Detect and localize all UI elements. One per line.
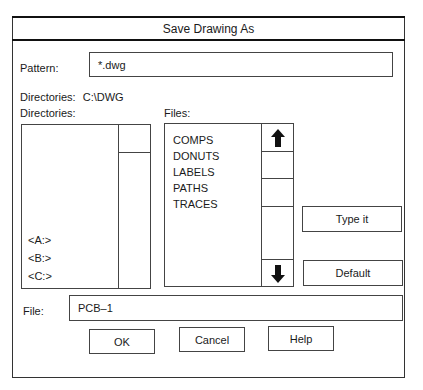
cancel-button[interactable]: Cancel (179, 327, 245, 352)
file-item[interactable]: TRACES (173, 196, 219, 212)
directories-scrollbar[interactable] (118, 124, 151, 289)
directory-item-c[interactable]: <C:> (28, 267, 52, 285)
directories-scroll-thumb[interactable] (119, 125, 150, 153)
scroll-divider (262, 178, 293, 179)
directories-list[interactable]: <A:> <B:> <C:> (21, 124, 119, 289)
help-label: Help (290, 333, 313, 345)
current-directory: Directories: C:\DWG (20, 91, 124, 103)
default-button[interactable]: Default (303, 260, 403, 286)
dialog-title-bar: Save Drawing As (12, 16, 405, 41)
file-item[interactable]: DONUTS (173, 148, 219, 164)
file-input[interactable]: PCB–1 (69, 295, 403, 321)
directories-label: Directories: (20, 107, 76, 119)
files-list[interactable]: COMPS DONUTS LABELS PATHS TRACES (164, 123, 262, 287)
scroll-down-button[interactable] (262, 259, 293, 287)
ok-label: OK (114, 336, 130, 348)
arrow-up-icon (271, 129, 285, 147)
default-label: Default (336, 267, 371, 279)
dialog-title: Save Drawing As (163, 22, 254, 36)
cancel-label: Cancel (195, 334, 229, 346)
files-scrollbar[interactable] (261, 123, 294, 287)
type-it-button[interactable]: Type it (302, 206, 402, 232)
current-directory-label: Directories: (20, 91, 76, 103)
arrow-down-icon (271, 265, 285, 283)
ok-button[interactable]: OK (89, 329, 155, 354)
files-label: Files: (164, 107, 190, 119)
help-button[interactable]: Help (268, 326, 334, 351)
file-label: File: (23, 305, 44, 317)
directory-item-b[interactable]: <B:> (28, 249, 52, 267)
scroll-divider (262, 206, 293, 207)
file-value: PCB–1 (78, 302, 113, 314)
current-directory-value: C:\DWG (83, 91, 124, 103)
file-item[interactable]: COMPS (173, 132, 219, 148)
pattern-input[interactable]: *.dwg (89, 52, 393, 77)
file-item[interactable]: PATHS (173, 180, 219, 196)
pattern-value: *.dwg (98, 59, 126, 71)
scroll-up-button[interactable] (262, 124, 293, 152)
pattern-label: Pattern: (20, 62, 59, 74)
directory-item-a[interactable]: <A:> (28, 231, 52, 249)
file-item[interactable]: LABELS (173, 164, 219, 180)
type-it-label: Type it (336, 213, 368, 225)
